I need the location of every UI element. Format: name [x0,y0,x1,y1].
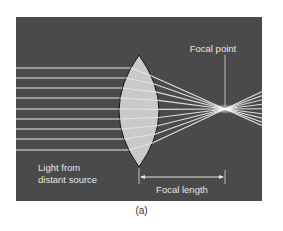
focal-length-label: Focal length [156,184,208,195]
focal-point-label: Focal point [190,43,237,54]
light-source-label-line1: Light from [38,162,80,173]
lens-diagram: Focal point Light from distant source Fo… [0,0,283,231]
lens-diagram-canvas: Focal point Light from distant source Fo… [0,0,283,231]
figure-caption: (a) [0,205,283,216]
light-source-label-line2: distant source [38,174,97,185]
